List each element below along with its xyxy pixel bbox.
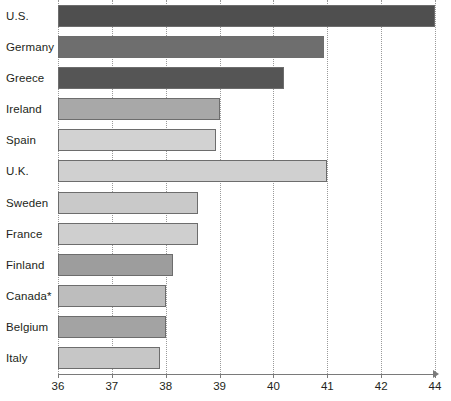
category-label: Spain [6, 134, 58, 146]
x-tick-label: 44 [420, 380, 450, 392]
bar-ireland [58, 98, 220, 120]
x-tick-mark [166, 374, 167, 378]
category-label: Finland [6, 259, 58, 271]
bar-u-k [58, 160, 327, 182]
category-label: Belgium [6, 321, 58, 333]
bar-belgium [58, 316, 166, 338]
gridline [435, 0, 436, 374]
plot-area [58, 0, 435, 374]
x-tick-label: 40 [258, 380, 288, 392]
x-tick-mark [327, 374, 328, 378]
category-label: U.K. [6, 165, 58, 177]
category-label: Italy [6, 352, 58, 364]
x-axis-arrow-icon [433, 370, 439, 378]
x-tick-label: 42 [366, 380, 396, 392]
x-tick-label: 41 [312, 380, 342, 392]
bar-finland [58, 254, 173, 276]
bar-canada [58, 285, 166, 307]
bar-sweden [58, 192, 198, 214]
x-tick-mark [435, 374, 436, 378]
bar-chart: U.S.GermanyGreeceIrelandSpainU.K.SwedenF… [0, 0, 451, 401]
x-tick-mark [381, 374, 382, 378]
category-label: Sweden [6, 197, 58, 209]
bar-italy [58, 347, 160, 369]
category-label: U.S. [6, 10, 58, 22]
category-label: Greece [6, 72, 58, 84]
x-tick-label: 39 [205, 380, 235, 392]
x-tick-mark [273, 374, 274, 378]
category-label: Ireland [6, 103, 58, 115]
gridline [327, 0, 328, 374]
category-label: France [6, 228, 58, 240]
bar-france [58, 223, 198, 245]
x-tick-label: 38 [151, 380, 181, 392]
bar-germany [58, 36, 324, 58]
x-tick-mark [220, 374, 221, 378]
x-tick-mark [112, 374, 113, 378]
bar-spain [58, 129, 216, 151]
bar-greece [58, 67, 284, 89]
bar-u-s [58, 5, 435, 27]
x-tick-label: 37 [97, 380, 127, 392]
x-tick-mark [58, 374, 59, 378]
gridline [381, 0, 382, 374]
category-axis-labels: U.S.GermanyGreeceIrelandSpainU.K.SwedenF… [0, 0, 58, 374]
x-axis-line [58, 374, 435, 375]
x-tick-label: 36 [43, 380, 73, 392]
category-label: Germany [6, 41, 58, 53]
category-label: Canada* [6, 290, 58, 302]
